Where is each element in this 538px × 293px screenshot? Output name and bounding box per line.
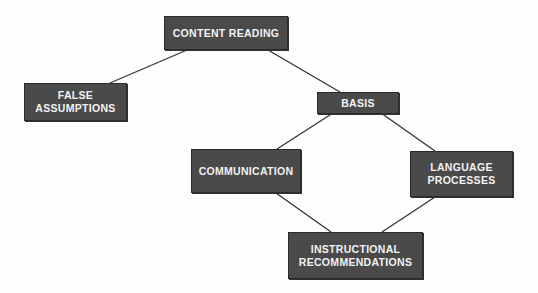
node-label: INSTRUCTIONAL RECOMMENDATIONS: [289, 243, 422, 269]
edge-basis-to-language-processes: [381, 113, 435, 151]
node-false-assumptions: FALSE ASSUMPTIONS: [24, 83, 127, 121]
edge-basis-to-communication: [277, 113, 333, 149]
node-label: CONTENT READING: [173, 27, 280, 40]
node-label: BASIS: [341, 97, 375, 110]
node-content-reading: CONTENT READING: [164, 16, 288, 50]
node-label: LANGUAGE PROCESSES: [411, 161, 512, 187]
node-instructional-recommendations: INSTRUCTIONAL RECOMMENDATIONS: [288, 232, 423, 279]
node-label: COMMUNICATION: [199, 165, 294, 178]
node-label: FALSE ASSUMPTIONS: [25, 89, 126, 115]
node-language-processes: LANGUAGE PROCESSES: [410, 151, 513, 197]
edge-content-reading-to-basis: [268, 50, 340, 92]
node-communication: COMMUNICATION: [191, 149, 301, 193]
node-basis: BASIS: [317, 92, 399, 114]
edge-language-processes-to-instructional-recommendations: [382, 197, 435, 232]
edge-communication-to-instructional-recommendations: [276, 193, 331, 232]
edge-content-reading-to-false-assumptions: [110, 50, 187, 83]
